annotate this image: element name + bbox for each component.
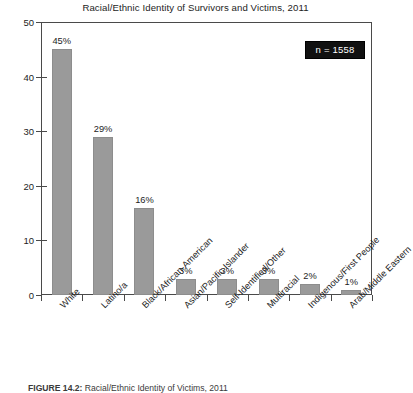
y-tick-label-20: 20 (8, 180, 34, 191)
y-tick-label-0: 0 (8, 290, 34, 301)
y-inner-tick-10 (42, 240, 47, 241)
y-tick-label-30: 30 (8, 126, 34, 137)
x-tick-mark-2 (124, 295, 125, 301)
y-tick-label-10: 10 (8, 235, 34, 246)
x-tick-mark-4 (207, 295, 208, 301)
x-tick-mark-8 (372, 295, 373, 301)
y-tick-label-40: 40 (8, 71, 34, 82)
y-tick-label-50: 50 (8, 17, 34, 28)
y-inner-tick-20 (42, 186, 47, 187)
sample-size-annotation: n = 1558 (305, 41, 365, 59)
bar-latino-a[interactable] (93, 137, 113, 295)
x-tick-mark-1 (82, 295, 83, 301)
x-tick-mark-7 (331, 295, 332, 301)
bar-value-latino-a: 29% (80, 124, 126, 134)
y-inner-tick-30 (42, 131, 47, 132)
bar-value-black-african-american: 16% (121, 195, 167, 205)
x-tick-mark-3 (165, 295, 166, 301)
figure-caption: FIGURE 14.2: Racial/Ethnic Identity of V… (28, 383, 228, 393)
x-tick-mark-0 (41, 295, 42, 301)
figure-caption-label: FIGURE 14.2: (28, 383, 82, 393)
plot-area (41, 22, 372, 295)
figure-caption-text: Racial/Ethnic Identity of Victims, 2011 (82, 383, 227, 393)
bar-black-african-american[interactable] (134, 208, 154, 295)
bar-value-white: 45% (39, 36, 85, 46)
y-inner-tick-40 (42, 77, 47, 78)
x-tick-mark-6 (289, 295, 290, 301)
x-tick-mark-5 (248, 295, 249, 301)
bar-white[interactable] (52, 49, 72, 295)
chart-title: Racial/Ethnic Identity of Survivors and … (0, 2, 391, 13)
